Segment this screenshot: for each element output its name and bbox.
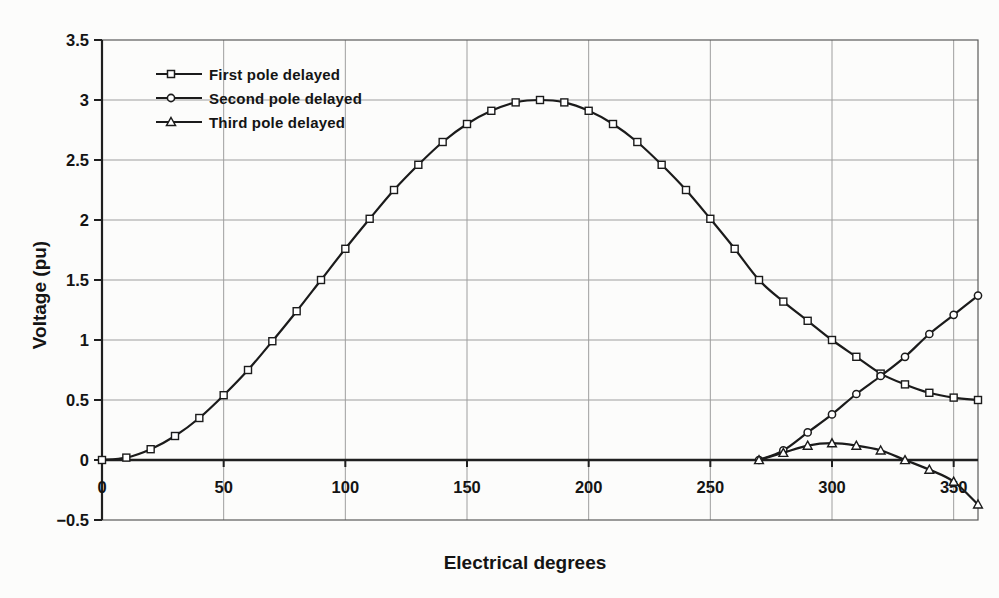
data-point-square xyxy=(707,215,714,222)
data-point-square xyxy=(926,389,933,396)
y-tick-label: −0.5 xyxy=(56,511,89,529)
data-point-circle xyxy=(901,353,908,360)
data-point-square xyxy=(731,245,738,252)
legend-item-third-pole-delayed: Third pole delayed xyxy=(156,110,362,134)
x-tick-label: 100 xyxy=(332,478,360,496)
data-point-square xyxy=(829,337,836,344)
legend-label: Third pole delayed xyxy=(209,114,345,131)
data-point-square xyxy=(293,308,300,315)
y-tick-label: 0 xyxy=(80,451,89,469)
data-point-square xyxy=(561,99,568,106)
data-point-square xyxy=(780,298,787,305)
data-point-circle xyxy=(974,292,981,299)
y-tick-label: 2.5 xyxy=(66,151,89,169)
legend: First pole delayed Second pole delayed T… xyxy=(156,62,362,134)
x-tick-label: 50 xyxy=(214,478,232,496)
data-point-square xyxy=(804,317,811,324)
data-point-circle xyxy=(950,311,957,318)
y-tick-label: 3 xyxy=(80,91,89,109)
data-point-square xyxy=(245,367,252,374)
data-point-square xyxy=(220,392,227,399)
square-marker-icon xyxy=(156,68,202,80)
data-point-square xyxy=(439,139,446,146)
data-point-circle xyxy=(926,330,933,337)
x-tick-label: 300 xyxy=(818,478,846,496)
data-point-square xyxy=(464,121,471,128)
circle-marker-icon xyxy=(156,92,202,104)
x-axis-title: Electrical degrees xyxy=(444,552,607,574)
data-point-square xyxy=(634,139,641,146)
data-point-square xyxy=(415,161,422,168)
x-tick-label: 0 xyxy=(97,478,106,496)
data-point-square xyxy=(756,277,763,284)
data-point-square xyxy=(950,394,957,401)
triangle-marker-icon xyxy=(156,116,202,128)
y-tick-label: 1.5 xyxy=(66,271,89,289)
data-point-square xyxy=(342,245,349,252)
data-point-square xyxy=(610,121,617,128)
data-point-square xyxy=(99,457,106,464)
figure: 0501001502002503003503.532.521.510.50−0.… xyxy=(0,0,999,598)
data-point-square xyxy=(172,433,179,440)
data-point-square xyxy=(318,277,325,284)
y-tick-label: 2 xyxy=(80,211,89,229)
y-tick-label: 0.5 xyxy=(66,391,89,409)
x-tick-label: 200 xyxy=(575,478,603,496)
data-point-square xyxy=(853,353,860,360)
legend-label: First pole delayed xyxy=(209,66,340,83)
data-point-square xyxy=(366,215,373,222)
data-point-circle xyxy=(804,429,811,436)
data-point-circle xyxy=(828,411,835,418)
x-tick-label: 150 xyxy=(453,478,481,496)
legend-item-first-pole-delayed: First pole delayed xyxy=(156,62,362,86)
data-point-circle xyxy=(853,390,860,397)
data-point-square xyxy=(512,99,519,106)
data-point-square xyxy=(585,107,592,114)
data-point-square xyxy=(269,338,276,345)
series-line-1 xyxy=(759,296,978,460)
data-point-square xyxy=(196,415,203,422)
data-point-square xyxy=(537,97,544,104)
data-point-square xyxy=(147,446,154,453)
data-point-square xyxy=(391,187,398,194)
y-tick-label: 1 xyxy=(80,331,89,349)
data-point-square xyxy=(123,454,130,461)
data-point-circle xyxy=(877,372,884,379)
data-point-square xyxy=(902,381,909,388)
y-tick-label: 3.5 xyxy=(66,31,89,49)
x-tick-label: 250 xyxy=(697,478,725,496)
chart-canvas: 0501001502002503003503.532.521.510.50−0.… xyxy=(0,0,999,598)
legend-item-second-pole-delayed: Second pole delayed xyxy=(156,86,362,110)
data-point-square xyxy=(658,161,665,168)
data-point-square xyxy=(975,397,982,404)
data-point-square xyxy=(683,187,690,194)
y-axis-title: Voltage (pu) xyxy=(29,241,51,349)
data-point-square xyxy=(488,107,495,114)
legend-label: Second pole delayed xyxy=(209,90,362,107)
